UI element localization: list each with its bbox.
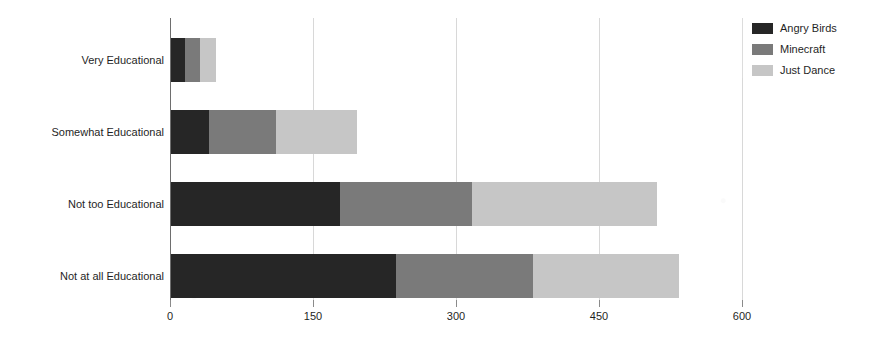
legend-divider — [742, 18, 743, 78]
x-tick-label: 300 — [447, 310, 465, 322]
bar-row: Not too Educational — [0, 182, 882, 226]
x-tick-label: 450 — [590, 310, 608, 322]
stacked-bar — [171, 182, 657, 226]
legend-label: Angry Birds — [780, 22, 837, 34]
legend-swatch-just-dance — [752, 65, 773, 76]
bar-segment — [185, 38, 199, 82]
bar-segment — [533, 254, 679, 298]
legend-label: Just Dance — [780, 64, 835, 76]
category-label: Very Educational — [81, 54, 164, 66]
tick-mark-450 — [599, 300, 600, 307]
bar-segment — [209, 110, 276, 154]
bar-segment — [171, 38, 185, 82]
chart-legend: Angry BirdsMinecraftJust Dance — [752, 22, 837, 76]
bar-segment — [340, 182, 473, 226]
bar-row: Not at all Educational — [0, 254, 882, 298]
legend-swatch-angry-birds — [752, 23, 773, 34]
x-tick-label: 150 — [304, 310, 322, 322]
tick-mark-150 — [313, 300, 314, 307]
bar-segment — [171, 110, 209, 154]
bar-row: Somewhat Educational — [0, 110, 882, 154]
bar-segment — [396, 254, 533, 298]
legend-swatch-minecraft — [752, 44, 773, 55]
category-label: Somewhat Educational — [51, 126, 164, 138]
stacked-bar — [171, 38, 216, 82]
stacked-bar-chart: 0150300450600 Very EducationalSomewhat E… — [0, 0, 882, 346]
legend-item[interactable]: Angry Birds — [752, 22, 837, 34]
tick-mark-0 — [170, 300, 171, 307]
category-label: Not at all Educational — [60, 270, 164, 282]
legend-label: Minecraft — [780, 43, 825, 55]
bar-segment — [276, 110, 357, 154]
category-label: Not too Educational — [68, 198, 164, 210]
bar-segment — [200, 38, 216, 82]
tick-mark-600 — [742, 300, 743, 307]
x-tick-label: 600 — [733, 310, 751, 322]
bar-segment — [171, 182, 340, 226]
legend-item[interactable]: Minecraft — [752, 43, 837, 55]
stacked-bar — [171, 110, 357, 154]
tick-mark-300 — [456, 300, 457, 307]
bar-segment — [472, 182, 657, 226]
legend-item[interactable]: Just Dance — [752, 64, 837, 76]
x-tick-label: 0 — [167, 310, 173, 322]
stacked-bar — [171, 254, 679, 298]
bar-row: Very Educational — [0, 38, 882, 82]
bar-segment — [171, 254, 396, 298]
